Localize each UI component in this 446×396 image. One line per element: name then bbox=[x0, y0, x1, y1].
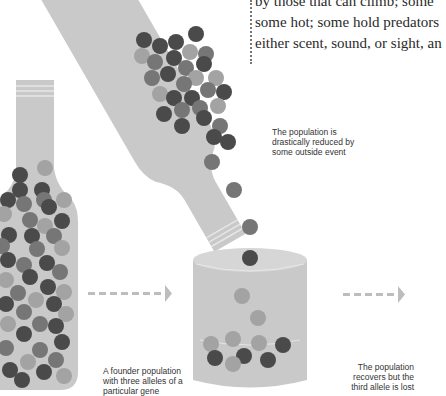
caption-line: some outside event bbox=[272, 147, 392, 157]
caption-line: drastically reduced by bbox=[272, 137, 392, 147]
caption-line: The population bbox=[340, 362, 414, 372]
caption-founder: A founder population with three alleles … bbox=[103, 366, 213, 396]
caption-line: A founder population bbox=[103, 366, 213, 376]
caption-recovery: The population recovers but the third al… bbox=[340, 362, 414, 392]
caption-reduction: The population is drastically reduced by… bbox=[272, 127, 392, 157]
caption-line: The population is bbox=[272, 127, 392, 137]
caption-line: recovers but the bbox=[340, 372, 414, 382]
caption-line: third allele is lost bbox=[340, 382, 414, 392]
arrow-right-icon bbox=[343, 286, 405, 303]
arrow-right-icon bbox=[88, 285, 172, 302]
caption-line: particular gene bbox=[103, 386, 213, 396]
caption-line: with three alleles of a bbox=[103, 376, 213, 386]
